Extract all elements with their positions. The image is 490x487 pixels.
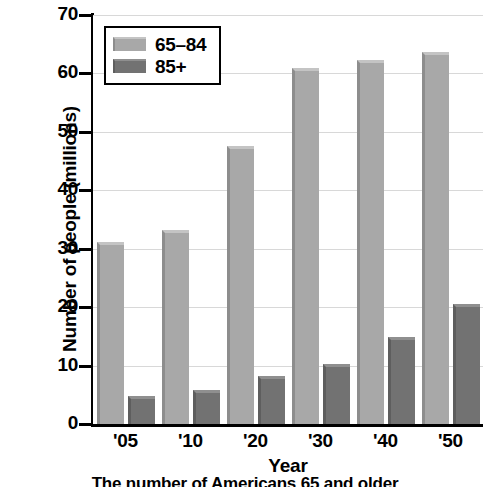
bar bbox=[193, 390, 220, 424]
chart-legend: 65–84 85+ bbox=[104, 26, 221, 85]
y-axis-tick-label: 20 bbox=[4, 295, 78, 317]
y-axis-tick-label: 30 bbox=[4, 237, 78, 259]
y-axis-tick bbox=[79, 248, 92, 251]
y-axis-tick bbox=[79, 423, 92, 426]
y-axis-tick bbox=[79, 189, 92, 192]
bar-chart-figure: Number of people (millions) 010203040506… bbox=[0, 0, 490, 487]
bar bbox=[97, 242, 124, 424]
bar bbox=[388, 337, 415, 424]
bar-group bbox=[422, 15, 480, 424]
figure-caption: The number of Americans 65 and older bbox=[0, 474, 490, 487]
legend-label-65-84: 65–84 bbox=[155, 35, 206, 54]
bar bbox=[258, 376, 285, 424]
y-axis-tick-label: 50 bbox=[4, 120, 78, 142]
y-axis-tick bbox=[79, 131, 92, 134]
legend-item: 85+ bbox=[113, 55, 206, 77]
bar bbox=[323, 364, 350, 424]
x-axis-tick-label: '50 bbox=[411, 430, 490, 452]
bar bbox=[357, 60, 384, 424]
bar bbox=[422, 52, 449, 424]
bar bbox=[162, 230, 189, 424]
bar bbox=[128, 396, 155, 424]
y-axis-tick bbox=[79, 72, 92, 75]
y-axis-tick-label: 70 bbox=[4, 3, 78, 25]
y-axis-tick-label: 10 bbox=[4, 354, 78, 376]
legend-item: 65–84 bbox=[113, 33, 206, 55]
y-axis-tick bbox=[79, 365, 92, 368]
bar-group bbox=[227, 15, 285, 424]
y-axis-tick-label: 60 bbox=[4, 61, 78, 83]
y-axis-tick bbox=[79, 14, 92, 17]
bar bbox=[453, 304, 480, 424]
legend-swatch-65-84-icon bbox=[113, 37, 146, 51]
y-axis-tick bbox=[79, 306, 92, 309]
bar-group bbox=[292, 15, 350, 424]
bar bbox=[227, 146, 254, 424]
y-axis-tick-label: 40 bbox=[4, 178, 78, 200]
legend-swatch-85-plus-icon bbox=[113, 59, 146, 73]
legend-label-85-plus: 85+ bbox=[155, 57, 186, 76]
y-axis-tick-label: 0 bbox=[4, 412, 78, 434]
bar bbox=[292, 68, 319, 424]
bar-group bbox=[357, 15, 415, 424]
x-axis-spine bbox=[91, 424, 483, 427]
